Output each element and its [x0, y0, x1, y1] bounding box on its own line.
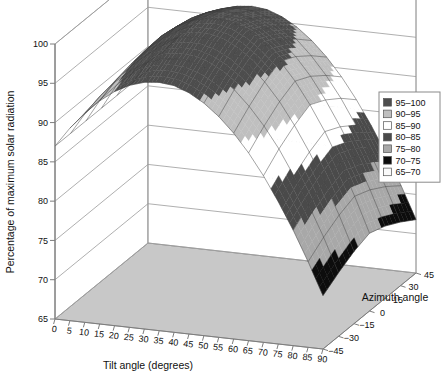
legend-swatch	[384, 157, 392, 165]
x-axis-title: Tilt angle (degrees)	[103, 359, 193, 371]
y-axis-title: Azimuth angle	[362, 291, 429, 303]
x-tick-label: 65	[242, 345, 253, 356]
legend-swatch	[384, 133, 392, 141]
x-tick-label: 70	[257, 347, 268, 358]
x-tick-label: 40	[168, 337, 179, 348]
z-tick-label: 95	[38, 78, 48, 88]
x-tick-label: 5	[66, 325, 72, 335]
x-tick-label: 30	[138, 333, 149, 344]
x-tick-label: 10	[79, 327, 90, 338]
legend-swatch	[384, 168, 392, 176]
z-tick-label: 65	[38, 314, 48, 324]
legend-label: 95–100	[396, 98, 426, 108]
legend-label: 65–70	[396, 167, 421, 177]
x-tick-label: 15	[93, 328, 104, 339]
legend: 95–10090–9585–9080–8575–8070–7565–70	[379, 92, 440, 182]
legend-swatch	[384, 99, 392, 107]
x-tick-label: 90	[317, 353, 328, 364]
x-tick-label: 20	[108, 330, 119, 341]
legend-swatch	[384, 122, 392, 130]
x-tick-label: 75	[272, 348, 283, 359]
z-axis-title: Percentage of maximum solar radiation	[4, 91, 16, 274]
z-tick-label: 100	[33, 39, 48, 49]
legend-label: 70–75	[396, 156, 421, 166]
legend-label: 75–80	[396, 144, 421, 154]
x-tick-label: 25	[123, 332, 134, 343]
legend-label: 90–95	[396, 109, 421, 119]
x-tick-label: 35	[153, 335, 164, 346]
legend-swatch	[384, 110, 392, 118]
x-tick-label: 50	[198, 340, 209, 351]
x-tick-label: 60	[227, 343, 238, 354]
z-tick-label: 90	[38, 118, 48, 128]
y-tick-label: 0	[380, 308, 385, 318]
legend-swatch	[384, 145, 392, 153]
z-tick-label: 80	[38, 196, 48, 206]
x-tick-label: 0	[51, 324, 57, 334]
chart-canvas: 65707580859095100Percentage of maximum s…	[0, 0, 443, 379]
y-tick-label: 45	[424, 270, 434, 280]
legend-label: 85–90	[396, 121, 421, 131]
z-tick-label: 75	[38, 236, 48, 246]
x-tick-label: 55	[213, 342, 224, 353]
y-tick-label: −15	[359, 320, 374, 330]
z-tick-label: 85	[38, 157, 48, 167]
solar-radiation-surface-chart: 65707580859095100Percentage of maximum s…	[0, 0, 443, 379]
y-tick-label: −45	[328, 346, 343, 356]
x-tick-label: 85	[302, 352, 313, 363]
z-tick-label: 70	[38, 275, 48, 285]
x-tick-label: 45	[183, 338, 194, 349]
legend-label: 80–85	[396, 132, 421, 142]
x-tick-label: 80	[287, 350, 298, 361]
y-tick-label: −30	[344, 333, 359, 343]
